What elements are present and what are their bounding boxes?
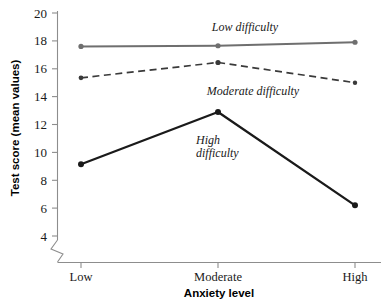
y-tick-label: 14 [34,89,48,104]
data-point [352,40,357,45]
series-label-high-difficulty-line1: High [195,133,220,147]
x-tick-label-moderate: Moderate [194,270,242,284]
y-tick-label: 16 [34,61,48,76]
y-tick-label: 12 [34,117,47,132]
series-label-low-difficulty: Low difficulty [211,20,279,34]
y-tick-label: 4 [41,229,48,244]
y-tick-label: 6 [41,201,48,216]
y-tick-label: 8 [41,173,48,188]
y-tick-marks [52,13,58,236]
data-point [78,44,83,49]
data-point [353,80,357,84]
data-point [78,161,84,167]
series-label-moderate-difficulty: Moderate difficulty [206,84,300,98]
data-point [79,75,84,80]
line-chart: 20 18 16 14 12 10 8 6 4 Low Moderate Hig… [0,0,392,304]
y-axis-title: Test score (mean values) [9,60,21,197]
series-line-moderate-difficulty [81,62,355,82]
y-tick-label: 18 [34,33,47,48]
data-point [215,43,220,48]
x-tick-label-low: Low [70,270,93,284]
y-tick-label: 10 [34,145,47,160]
x-axis-title: Anxiety level [184,287,254,299]
series-moderate-difficulty [79,60,358,85]
series-low-difficulty [78,40,357,49]
axis-break-icon [51,240,63,262]
data-point [215,109,221,115]
y-tick-label: 20 [34,6,47,21]
x-tick-label-high: High [343,270,369,284]
x-tick-marks [81,263,355,269]
chart-container: 20 18 16 14 12 10 8 6 4 Low Moderate Hig… [0,0,392,304]
data-point [215,60,220,65]
data-point [352,202,358,208]
series-label-high-difficulty-line2: difficulty [196,146,239,160]
